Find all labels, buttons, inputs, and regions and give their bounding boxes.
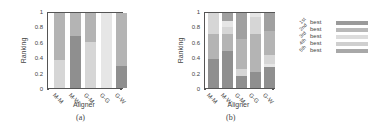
bar-segment-3rd xyxy=(222,27,233,35)
stacked-bar-m-w xyxy=(70,13,81,88)
bar-segment-5th xyxy=(264,13,275,31)
x-axis-label: Aligner xyxy=(228,101,250,108)
stacked-bar-g-w xyxy=(116,13,127,88)
y-tick-mark xyxy=(120,89,122,90)
legend-label: best xyxy=(310,33,321,40)
bar-segment-3rd xyxy=(250,17,261,34)
bar-segment-2nd xyxy=(264,31,275,55)
bar-segment-4th xyxy=(250,13,261,17)
y-tick-label: 0.4 xyxy=(29,55,43,61)
y-tick-label: 0.2 xyxy=(186,71,200,77)
legend-swatch xyxy=(336,28,368,32)
y-tick-label: 0 xyxy=(186,86,200,92)
legend-label: best xyxy=(310,19,321,26)
x-axis-label: Aligner xyxy=(73,101,95,108)
stacked-bar-m-w xyxy=(222,13,233,88)
bar-segment-1st xyxy=(222,51,233,89)
bar-segment-1st xyxy=(116,66,127,89)
bar-segment-2nd xyxy=(208,34,219,59)
legend-swatch xyxy=(336,35,368,39)
x-tick-label: G-W xyxy=(262,92,275,105)
panel-caption: (a) xyxy=(76,113,85,122)
y-tick-label: 0.6 xyxy=(29,40,43,46)
bar-segment-5th xyxy=(222,13,233,21)
legend-swatch xyxy=(336,21,368,25)
y-tick-label: 0.8 xyxy=(29,24,43,30)
x-tick-label: M-M xyxy=(206,92,219,105)
y-axis-label: Ranking xyxy=(20,37,27,63)
y-tick-label: 1 xyxy=(29,9,43,15)
legend-swatch xyxy=(336,49,368,53)
bar-segment-3rd xyxy=(236,69,247,77)
plot-area xyxy=(204,12,275,89)
x-tick-label: G-G xyxy=(248,92,260,104)
bar-segment-1st xyxy=(250,72,261,89)
bar-segment-2nd xyxy=(54,13,65,60)
bar-segment-2nd xyxy=(222,34,233,51)
legend-ordinal: 5th xyxy=(298,44,307,53)
bar-segment-4th xyxy=(222,21,233,27)
bar-segment-3rd xyxy=(85,42,96,89)
bar-segment-2nd xyxy=(236,39,247,69)
plot-area xyxy=(47,12,123,89)
bar-segment-5th xyxy=(236,13,247,39)
stacked-bar-g-g xyxy=(250,13,261,88)
bar-segment-2nd xyxy=(250,34,261,72)
y-tick-mark xyxy=(47,89,49,90)
bar-segment-2nd xyxy=(116,13,127,66)
x-tick-label: G-W xyxy=(114,92,127,105)
legend-label: best xyxy=(310,47,321,54)
x-tick-label: M-M xyxy=(52,92,65,105)
stacked-bar-g-w xyxy=(264,13,275,88)
legend-label: best xyxy=(310,26,321,33)
y-tick-label: 0.2 xyxy=(29,71,43,77)
legend-swatch xyxy=(336,42,368,46)
bar-segment-2nd xyxy=(85,13,96,42)
panel-caption: (b) xyxy=(226,113,235,122)
y-axis-label: Ranking xyxy=(177,37,184,63)
bar-segment-4th xyxy=(264,64,275,67)
y-tick-label: 1 xyxy=(186,9,200,15)
bar-segment-1st xyxy=(208,59,219,88)
x-tick-label: G-G xyxy=(98,92,110,104)
bar-segment-1st xyxy=(236,76,247,88)
stacked-bar-m-m xyxy=(54,13,65,88)
y-tick-label: 0.6 xyxy=(186,40,200,46)
stacked-bar-g-m xyxy=(85,13,96,88)
bar-segment-1st xyxy=(264,67,275,88)
y-tick-label: 0.4 xyxy=(186,55,200,61)
legend-label: best xyxy=(310,40,321,47)
y-tick-mark xyxy=(272,89,274,90)
y-tick-label: 0 xyxy=(29,86,43,92)
stacked-bar-g-m xyxy=(236,13,247,88)
bar-segment-4th xyxy=(101,13,112,88)
bar-segment-3rd xyxy=(54,60,65,89)
stacked-bar-m-m xyxy=(208,13,219,88)
bar-segment-1st xyxy=(70,36,81,89)
y-tick-label: 0.8 xyxy=(186,24,200,30)
y-tick-mark xyxy=(204,89,206,90)
bar-segment-2nd xyxy=(70,13,81,36)
stacked-bar-g-g xyxy=(101,13,112,88)
bar-segment-3rd xyxy=(208,13,219,34)
bar-segment-3rd xyxy=(264,55,275,64)
